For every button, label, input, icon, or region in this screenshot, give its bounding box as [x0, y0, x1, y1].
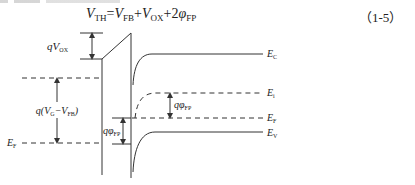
ec-band-curve [133, 54, 263, 85]
label-ef-gate: EF [6, 137, 17, 149]
label-qphi-surface: qφFP [103, 125, 121, 137]
ev-band-curve [133, 132, 263, 172]
label-qvox: qVOX [47, 40, 69, 53]
label-ev: EV [266, 127, 278, 139]
label-ec: EC [266, 48, 277, 60]
label-ef-substrate: EF [266, 112, 277, 124]
mos-band-diagram: qVOX q(VG−VFB) EF qφFP qφFP EC Ei EF EV [0, 0, 415, 185]
label-qphi-bulk: qφFP [174, 99, 192, 111]
label-q-vg-vfb: q(VG−VFB) [36, 105, 79, 117]
ei-band-curve [135, 93, 263, 118]
oxide-band-slope [102, 33, 131, 59]
label-ei: Ei [266, 87, 275, 99]
